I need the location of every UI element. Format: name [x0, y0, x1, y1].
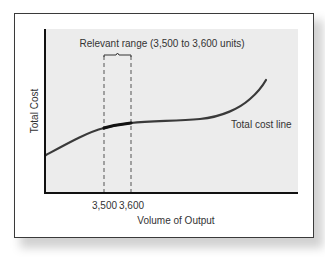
series-label: Total cost line: [231, 119, 292, 130]
total-cost-chart: Relevant range (3,500 to 3,600 units) To…: [0, 0, 325, 257]
relevant-range-annotation: Relevant range (3,500 to 3,600 units): [79, 38, 244, 49]
x-tick-3500: 3,500: [92, 200, 117, 211]
x-axis-label: Volume of Output: [137, 215, 214, 226]
y-axis-label: Total Cost: [29, 89, 40, 134]
plot-area: [45, 29, 298, 193]
x-tick-3600: 3,600: [119, 200, 144, 211]
